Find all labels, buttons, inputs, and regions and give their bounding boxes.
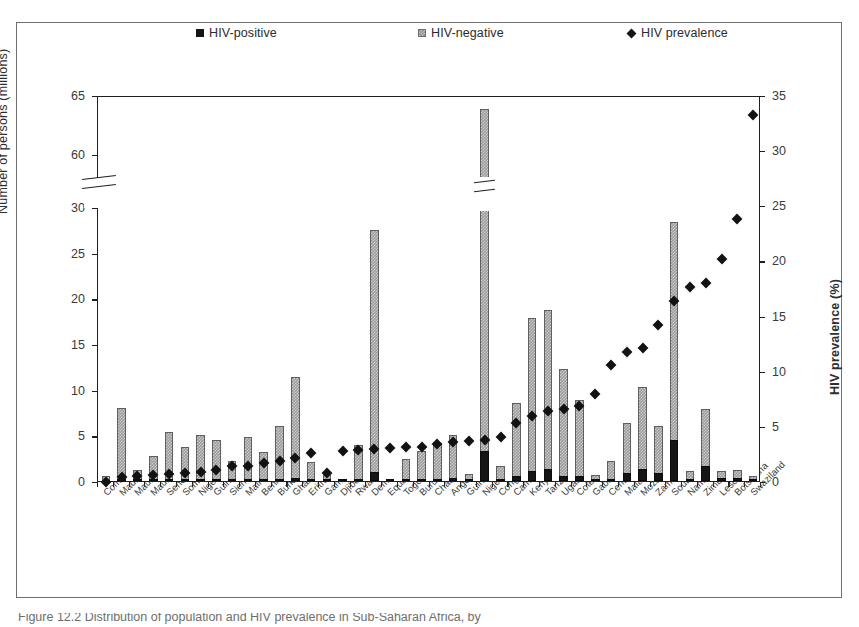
prevalence-point [116, 472, 127, 483]
prevalence-point [590, 388, 601, 399]
prevalence-point [511, 418, 522, 429]
y-tick-label-right: 10 [772, 365, 812, 379]
prevalence-point [258, 458, 269, 469]
prevalence-point [227, 461, 238, 472]
hatched-square-icon [418, 29, 426, 37]
y-tick-label-left: 30 [45, 201, 85, 215]
y-axis-title-right: HIV prevalence (%) [828, 279, 842, 395]
y-tick-label-left: 60 [45, 148, 85, 162]
y-tick-label-left: 65 [45, 89, 85, 103]
prevalence-point [653, 320, 664, 331]
prevalence-point [700, 278, 711, 289]
y-tick-right [760, 427, 765, 428]
prevalence-point [164, 469, 175, 480]
prevalence-point [495, 431, 506, 442]
prevalence-point [637, 343, 648, 354]
y-tick-label-right: 15 [772, 310, 812, 324]
prevalence-point [179, 468, 190, 479]
chart-legend: HIV-positive HIV-negative HIV prevalence [0, 26, 859, 46]
prevalence-point [195, 467, 206, 478]
prevalence-point [464, 436, 475, 447]
prevalence-point [669, 296, 680, 307]
legend-label-hiv-positive: HIV-positive [209, 26, 277, 40]
prevalence-point [448, 437, 459, 448]
y-tick-label-left: 10 [45, 384, 85, 398]
prevalence-point [211, 464, 222, 475]
filled-diamond-icon [627, 28, 637, 38]
y-tick-right [760, 317, 765, 318]
y-tick-label-right: 5 [772, 420, 812, 434]
legend-label-hiv-prevalence: HIV prevalence [641, 26, 728, 40]
prevalence-point [337, 446, 348, 457]
prevalence-point [685, 281, 696, 292]
y-tick-label-left: 0 [45, 475, 85, 489]
prevalence-point [606, 360, 617, 371]
y-tick-label-left: 25 [45, 247, 85, 261]
y-tick-right [760, 206, 765, 207]
prevalence-point [400, 441, 411, 452]
prevalence-point [748, 109, 759, 120]
filled-square-icon [196, 29, 204, 37]
y-tick-label-right: 20 [772, 254, 812, 268]
prevalence-point [558, 404, 569, 415]
legend-item-hiv-prevalence: HIV prevalence [627, 26, 728, 40]
legend-label-hiv-negative: HIV-negative [431, 26, 504, 40]
prevalence-point [321, 468, 332, 479]
y-tick-right [760, 96, 765, 97]
prevalence-point [732, 214, 743, 225]
legend-item-hiv-negative: HIV-negative [418, 26, 504, 40]
y-tick-label-right: 30 [772, 144, 812, 158]
prevalence-point [527, 410, 538, 421]
prevalence-point [306, 448, 317, 459]
chart-plot-area [97, 96, 760, 482]
prevalence-points-layer [98, 97, 759, 481]
prevalence-point [432, 439, 443, 450]
prevalence-point [132, 471, 143, 482]
prevalence-point [353, 444, 364, 455]
prevalence-point [621, 346, 632, 357]
y-tick-label-left: 20 [45, 292, 85, 306]
prevalence-point [574, 400, 585, 411]
prevalence-point [243, 461, 254, 472]
prevalence-point [290, 452, 301, 463]
prevalence-point [416, 441, 427, 452]
prevalence-point [385, 442, 396, 453]
prevalence-point [148, 470, 159, 481]
y-tick-label-right: 25 [772, 199, 812, 213]
y-axis-title-left: Number of persons (millions) [0, 49, 10, 214]
legend-item-hiv-positive: HIV-positive [196, 26, 277, 40]
figure-caption: Figure 12.2 Distribution of population a… [18, 613, 678, 627]
x-tick [97, 482, 98, 487]
y-tick-label-right: 0 [772, 475, 812, 489]
y-tick-label-left: 5 [45, 429, 85, 443]
y-tick-right [760, 261, 765, 262]
prevalence-point [542, 406, 553, 417]
prevalence-point [716, 254, 727, 265]
y-tick-right [760, 151, 765, 152]
prevalence-point [274, 456, 285, 467]
y-tick-label-right: 35 [772, 89, 812, 103]
y-tick-right [760, 372, 765, 373]
y-tick-label-left: 15 [45, 338, 85, 352]
prevalence-point [369, 443, 380, 454]
prevalence-point [479, 435, 490, 446]
